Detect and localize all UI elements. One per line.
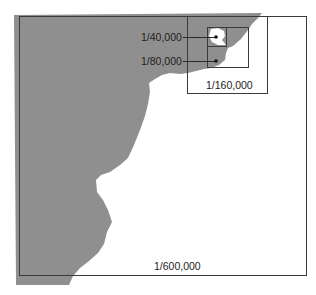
point-80000 (214, 59, 218, 63)
point-40000 (214, 35, 218, 39)
label-1-80000: 1/80,000 (141, 56, 182, 67)
label-1-40000: 1/40,000 (141, 32, 182, 43)
map-graphic (0, 0, 316, 295)
label-1-600000: 1/600,000 (154, 261, 201, 272)
map-diagram: 1/40,000 1/80,000 1/160,000 1/600,000 (0, 0, 316, 295)
land-mass (14, 13, 262, 285)
label-1-160000: 1/160,000 (206, 80, 253, 91)
